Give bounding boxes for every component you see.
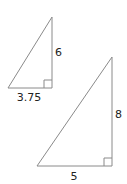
small-base-label: 3.75 xyxy=(17,91,42,104)
similar-triangles-diagram: 6 3.75 8 5 xyxy=(0,0,127,184)
large-triangle-outline xyxy=(37,57,112,166)
small-triangle: 6 3.75 xyxy=(8,17,62,104)
small-right-angle-marker xyxy=(44,80,52,88)
large-height-label: 8 xyxy=(115,108,122,121)
large-right-angle-marker xyxy=(104,158,112,166)
large-base-label: 5 xyxy=(71,170,78,183)
small-triangle-outline xyxy=(8,17,52,88)
small-height-label: 6 xyxy=(55,46,62,59)
large-triangle: 8 5 xyxy=(37,57,122,183)
